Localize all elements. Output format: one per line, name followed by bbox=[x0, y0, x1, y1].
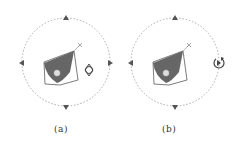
camera-frustum-icon bbox=[153, 43, 191, 85]
arrow-down-icon bbox=[172, 105, 178, 110]
figure-canvas bbox=[0, 0, 247, 148]
arrow-down-icon bbox=[63, 105, 69, 110]
arrow-left-icon bbox=[128, 60, 133, 66]
arrow-left-icon bbox=[19, 60, 24, 66]
gizmo-icon bbox=[85, 64, 93, 76]
panel-a bbox=[19, 15, 113, 110]
panel-b bbox=[128, 15, 224, 110]
arrow-up-icon bbox=[172, 15, 178, 20]
caption-a: (a) bbox=[54, 124, 68, 134]
arrow-up-icon bbox=[63, 15, 69, 20]
caption-b: (b) bbox=[162, 124, 176, 134]
camera-frustum-icon bbox=[44, 43, 82, 85]
arrow-right-icon bbox=[108, 60, 113, 66]
